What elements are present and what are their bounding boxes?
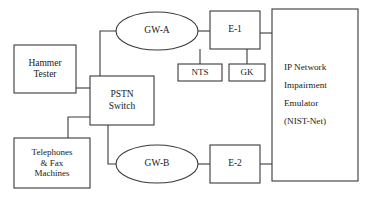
edge-pstn-switch-to-gw-a xyxy=(100,31,118,76)
network-diagram: Hammer Tester Telephones & Fax Machines … xyxy=(0,0,370,200)
node-shapes xyxy=(14,9,358,188)
node-shape-ip-network-impairment-emulator[interactable] xyxy=(272,9,358,181)
diagram-canvas xyxy=(0,0,370,200)
node-shape-telephones-fax-machines[interactable] xyxy=(14,138,90,188)
node-shape-e-2[interactable] xyxy=(210,145,260,183)
node-shape-gw-b[interactable] xyxy=(116,145,198,183)
node-shape-gk[interactable] xyxy=(229,64,265,81)
node-shape-e-1[interactable] xyxy=(210,11,260,49)
node-shape-pstn-switch[interactable] xyxy=(90,76,154,125)
node-shape-hammer-tester[interactable] xyxy=(14,45,76,93)
edge-pstn-switch-to-gw-b xyxy=(108,125,118,164)
node-shape-gw-a[interactable] xyxy=(116,12,198,50)
node-shape-nts[interactable] xyxy=(178,64,222,81)
